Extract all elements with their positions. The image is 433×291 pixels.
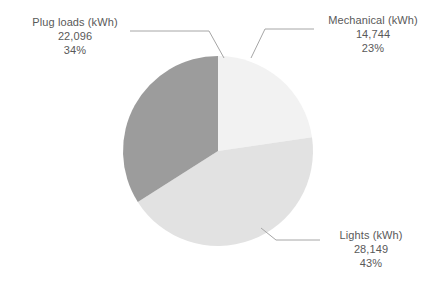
slice-label-plug-loads: Plug loads (kWh) [21, 15, 129, 29]
pie-chart: Plug loads (kWh) 22,096 34% Mechanical (… [0, 0, 433, 291]
slice-callout-plug-loads: Plug loads (kWh) 22,096 34% [21, 15, 129, 57]
slice-label-lights: Lights (kWh) [323, 228, 419, 242]
slice-percent-plug-loads: 34% [21, 43, 129, 57]
slice-callout-mechanical: Mechanical (kWh) 14,744 23% [318, 13, 428, 55]
slice-callout-lights: Lights (kWh) 28,149 43% [323, 228, 419, 270]
pie-slice-mechanical[interactable] [218, 56, 312, 151]
slice-value-mechanical: 14,744 [318, 27, 428, 41]
slice-value-lights: 28,149 [323, 242, 419, 256]
slice-label-mechanical: Mechanical (kWh) [318, 13, 428, 27]
leader-line-plug-loads [130, 31, 224, 58]
slice-percent-mechanical: 23% [318, 41, 428, 55]
leader-line-mechanical [251, 29, 314, 58]
slice-value-plug-loads: 22,096 [21, 29, 129, 43]
slice-percent-lights: 43% [323, 256, 419, 270]
